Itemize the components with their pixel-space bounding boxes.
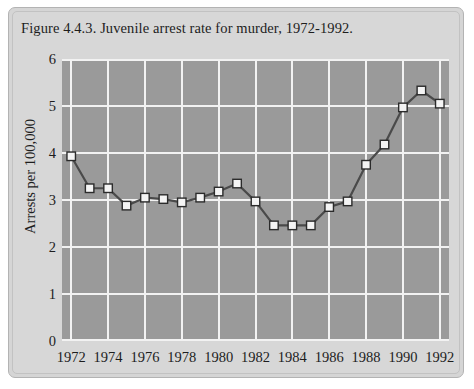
figure-panel: [8, 7, 464, 378]
figure-panel-inner: [12, 11, 460, 374]
figure-title: Figure 4.4.3. Juvenile arrest rate for m…: [21, 19, 441, 37]
figure-root: Figure 4.4.3. Juvenile arrest rate for m…: [0, 0, 474, 389]
